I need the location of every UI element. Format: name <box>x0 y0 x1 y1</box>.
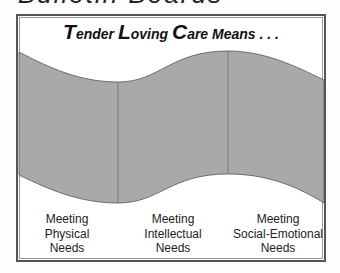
label-line: Needs <box>7 241 127 256</box>
wave-band-fill <box>19 51 324 203</box>
label-line: Meeting <box>218 212 338 227</box>
label-line: Needs <box>218 241 338 256</box>
label-line: Needs <box>113 241 233 256</box>
section-label-intellectual: Meeting Intellectual Needs <box>113 212 233 256</box>
section-label-social-emotional: Meeting Social-Emotional Needs <box>218 212 338 256</box>
label-line: Meeting <box>7 212 127 227</box>
label-line: Physical <box>7 227 127 242</box>
label-line: Meeting <box>113 212 233 227</box>
section-label-physical: Meeting Physical Needs <box>7 212 127 256</box>
label-line: Social-Emotional <box>218 227 338 242</box>
label-line: Intellectual <box>113 227 233 242</box>
